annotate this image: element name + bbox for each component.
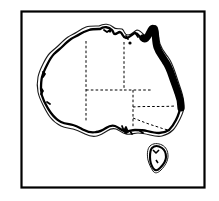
marker-north-1 (108, 29, 111, 32)
marker-north-2 (128, 41, 131, 44)
australia-map-figure (0, 0, 219, 201)
screenshot-root: Map of Australia Black and white line-ar… (0, 0, 219, 201)
map-svg (0, 0, 219, 201)
marker-south-1 (124, 130, 128, 134)
